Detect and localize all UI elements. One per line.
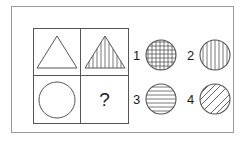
circle-vertical-hatch-icon (197, 37, 233, 73)
answer-option-2[interactable]: 2 (187, 37, 233, 73)
matrix-cell-top-right[interactable] (81, 29, 128, 76)
triangle-vertical-hatch-icon (82, 33, 128, 71)
matrix-grid: ? (33, 28, 129, 124)
answer-option-4[interactable]: 4 (187, 81, 233, 117)
answer-option-1-number: 1 (133, 49, 140, 62)
answer-option-3[interactable]: 3 (133, 81, 179, 117)
answer-option-4-number: 4 (187, 93, 194, 106)
answer-option-1[interactable]: 1 (133, 37, 179, 73)
triangle-outline-icon (34, 33, 80, 71)
answer-options: 1 (131, 28, 239, 124)
answer-option-2-number: 2 (187, 49, 194, 62)
matrix-cell-bottom-right-unknown[interactable]: ? (81, 76, 128, 123)
circle-diagonal-hatch-icon (197, 81, 233, 117)
question-mark-label: ? (99, 90, 110, 109)
puzzle-root: ? 1 (0, 0, 245, 141)
circle-grid-icon (143, 37, 179, 73)
matrix-cell-bottom-left[interactable] (34, 76, 81, 123)
matrix-cell-top-left[interactable] (34, 29, 81, 76)
circle-outline-icon (36, 79, 78, 121)
answer-option-3-number: 3 (133, 93, 140, 106)
circle-horizontal-hatch-icon (143, 81, 179, 117)
outer-frame: ? 1 (11, 6, 234, 133)
